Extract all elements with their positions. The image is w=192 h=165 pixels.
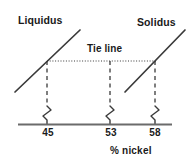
x-axis-title: % nickel	[110, 146, 152, 156]
axis-break-zigzag-45	[43, 106, 51, 124]
tie-line-label: Tie line	[87, 44, 122, 54]
liquidus-label: Liquidus	[18, 15, 63, 26]
phase-diagram-figure: Liquidus Solidus Tie line 45 53 58 % nic…	[0, 0, 192, 165]
x-axis-tick-label-53: 53	[98, 128, 124, 138]
x-axis-tick-label-58: 58	[142, 128, 168, 138]
solidus-label: Solidus	[137, 17, 176, 28]
axis-break-zigzag-53	[106, 106, 114, 124]
x-axis-tick-label-45: 45	[35, 128, 61, 138]
axis-break-zigzag-58	[151, 106, 159, 124]
